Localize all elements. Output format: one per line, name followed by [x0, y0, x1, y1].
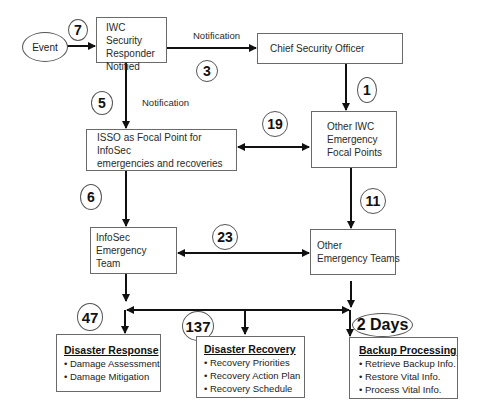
- list-item: Recovery Action Plan: [204, 369, 304, 382]
- other-iwc-focal-points-box: Other IWC Emergency Focal Points: [311, 111, 397, 168]
- count-badge-23: 23: [212, 224, 238, 250]
- count-badge-3: 3: [196, 60, 218, 82]
- list-item: Damage Mitigation: [64, 370, 160, 383]
- isso-focal-point-box: ISSO as Focal Point for InfoSec emergenc…: [86, 129, 237, 171]
- count-badge-5: 5: [91, 91, 113, 115]
- other-iwc-line-2: Emergency: [327, 133, 382, 146]
- list-item: Recovery Schedule: [204, 382, 304, 395]
- list-item: Damage Assessment: [64, 357, 160, 370]
- disaster-recovery-list: Recovery Priorities Recovery Action Plan…: [204, 356, 304, 395]
- list-item: Process Vital Info.: [359, 383, 457, 396]
- disaster-response-title: Disaster Response: [64, 343, 160, 357]
- count-badge-19: 19: [262, 111, 288, 137]
- count-badge-2-days: 2 Days: [352, 313, 413, 337]
- other-iwc-line-3: Focal Points: [327, 146, 382, 159]
- responder-line-1: IWC Security: [106, 21, 158, 47]
- count-badge-6: 6: [80, 184, 102, 210]
- disaster-response-card: Disaster Response Damage Assessment Dama…: [56, 334, 161, 392]
- event-node: Event: [22, 32, 68, 62]
- disaster-recovery-title: Disaster Recovery: [204, 342, 304, 356]
- incident-response-flow-diagram: Event IWC Security Responder Notified Ch…: [0, 0, 482, 420]
- disaster-recovery-card: Disaster Recovery Recovery Priorities Re…: [196, 336, 305, 398]
- isso-line-2: emergencies and recoveries: [97, 157, 228, 170]
- list-item: Retrieve Backup Info.: [359, 357, 457, 370]
- chief-security-officer-box: Chief Security Officer: [257, 33, 403, 64]
- count-badge-11: 11: [360, 188, 386, 214]
- count-badge-47: 47: [77, 303, 103, 331]
- event-label: Event: [32, 42, 58, 53]
- cso-label: Chief Security Officer: [258, 42, 372, 55]
- backup-processing-title: Backup Processing: [359, 343, 457, 357]
- notification-label-to-isso: Notification: [142, 97, 189, 108]
- responder-line-2: Responder: [106, 47, 158, 60]
- other-teams-line-2: Emergency Teams: [317, 252, 400, 265]
- list-item: Recovery Priorities: [204, 356, 304, 369]
- count-badge-1: 1: [357, 77, 377, 103]
- list-item: Restore Vital Info.: [359, 370, 457, 383]
- count-badge-7: 7: [68, 19, 88, 41]
- other-teams-line-1: Other: [317, 239, 400, 252]
- notification-label-to-cso: Notification: [193, 30, 240, 41]
- infosec-line-2: Emergency Team: [96, 244, 168, 270]
- backup-processing-list: Retrieve Backup Info. Restore Vital Info…: [359, 357, 457, 396]
- infosec-emergency-team-box: InfoSec Emergency Team: [90, 227, 177, 274]
- infosec-line-1: InfoSec: [96, 231, 168, 244]
- other-emergency-teams-box: Other Emergency Teams: [310, 229, 396, 275]
- iwc-security-responder-box: IWC Security Responder Notified: [96, 17, 167, 63]
- disaster-response-list: Damage Assessment Damage Mitigation: [64, 357, 160, 383]
- other-iwc-line-1: Other IWC: [327, 120, 382, 133]
- responder-line-3: Notified: [106, 60, 158, 73]
- isso-line-1: ISSO as Focal Point for InfoSec: [97, 131, 228, 157]
- backup-processing-card: Backup Processing Retrieve Backup Info. …: [349, 337, 458, 399]
